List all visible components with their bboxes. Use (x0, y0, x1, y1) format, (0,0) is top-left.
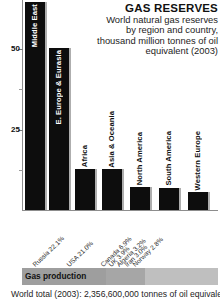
bar-label: E. Europe & Eurasia (55, 50, 63, 125)
bar (188, 192, 208, 210)
bar-group: North America (130, 0, 150, 210)
y-axis-line (22, 0, 23, 211)
bar-group: Africa (75, 0, 95, 210)
bar-group: Western Europe (188, 0, 208, 210)
bar-label: Western Europe (194, 131, 202, 191)
y-tick-label: 25 (11, 126, 20, 134)
bar-label: Africa (81, 145, 89, 167)
x-axis-baseline (22, 210, 218, 211)
y-axis-labels: 5025 (0, 0, 20, 211)
gas-production-label: Gas production (25, 272, 86, 281)
gas-production-segment (106, 268, 121, 285)
bar-group: Asia & Oceania (102, 0, 122, 210)
bar-group: E. Europe & Eurasia (49, 0, 69, 210)
country-share-label: Russia 22.1% (31, 235, 65, 268)
bar-group: Middle East (25, 0, 45, 210)
bar (102, 169, 122, 210)
gas-production-segment (145, 268, 218, 285)
bar-label: North America (136, 132, 144, 185)
world-total-footnote: World total (2003): 2,356,600,000 tonnes… (11, 289, 220, 299)
gas-reserves-infographic: GAS RESERVES World natural gas reserves … (0, 0, 220, 305)
y-tick-label: 50 (11, 45, 20, 53)
bar-label: Asia & Oceania (108, 111, 116, 168)
bar (159, 188, 179, 210)
country-share-callouts: Russia 22.1%USA 21.0%Canada 6.9%UK 3.9%A… (0, 214, 220, 262)
bar (75, 169, 95, 210)
bar-label: South America (165, 131, 173, 186)
bar-chart-plot: Middle EastE. Europe & EurasiaAfricaAsia… (22, 0, 218, 211)
bar-label: Middle East (31, 4, 39, 47)
bar-group: South America (159, 0, 179, 210)
bar (130, 187, 150, 210)
gas-production-bar: Gas production (22, 268, 218, 285)
country-share-label: USA 21.0% (65, 240, 94, 268)
